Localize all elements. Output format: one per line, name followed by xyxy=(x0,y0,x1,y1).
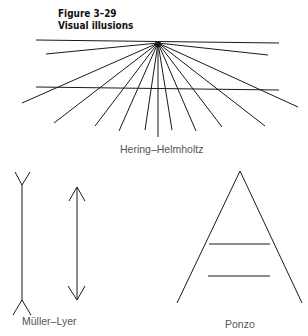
ponzo-figure xyxy=(177,171,302,303)
left-converging-line xyxy=(177,171,240,303)
illusions-drawing xyxy=(0,0,308,336)
ponzo-label: Ponzo xyxy=(225,318,255,330)
muller-lyer-figure xyxy=(13,172,85,315)
hering-helmholtz-figure xyxy=(22,40,298,137)
right-converging-line xyxy=(240,171,302,303)
muller-lyer-label: Müller–Lyer xyxy=(22,315,76,327)
arrowheads-line xyxy=(68,187,85,300)
hering-helmholtz-label: Hering–Helmholtz xyxy=(120,143,203,155)
fins-out-line xyxy=(13,172,31,315)
